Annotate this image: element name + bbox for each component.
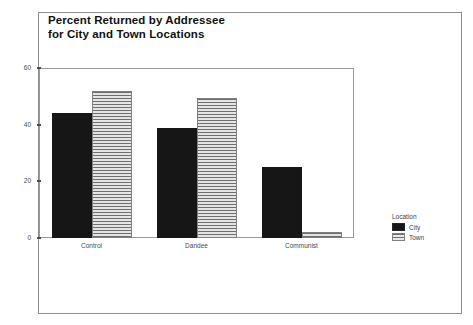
bar-city-communist — [262, 167, 302, 238]
y-axis-tick-label: 40 — [24, 121, 31, 128]
x-axis-tick-label: Control — [81, 242, 102, 249]
legend-label: City — [409, 224, 420, 231]
bar-town-control — [92, 91, 132, 238]
x-axis-tick-label: Communist — [285, 242, 318, 249]
chart-title-line-2: for City and Town Locations — [48, 28, 204, 40]
legend-label: Town — [409, 234, 424, 241]
legend-entries: CityTown — [392, 223, 452, 241]
legend-title: Location — [392, 213, 452, 220]
bar-town-dandee — [197, 98, 237, 238]
x-axis-tick-labels: ControlDandeeCommunist — [39, 242, 354, 256]
legend-swatch-city-icon — [392, 223, 405, 231]
y-axis-tick-label: 0 — [27, 234, 31, 241]
y-axis-tick-labels: 0204060 — [15, 68, 37, 238]
bar-town-communist — [302, 232, 342, 238]
bars-layer — [39, 68, 354, 238]
x-axis-tick-label: Dandee — [185, 242, 208, 249]
legend-swatch-town-icon — [392, 233, 405, 241]
chart-title-line-1: Percent Returned by Addressee — [48, 14, 225, 26]
legend-entry-city: City — [392, 223, 452, 231]
plot-area: 0204060 ControlDandeeCommunist — [39, 68, 354, 238]
bar-city-dandee — [157, 128, 197, 239]
legend-entry-town: Town — [392, 233, 452, 241]
legend: Location CityTown — [392, 213, 452, 243]
y-axis-tick-label: 20 — [24, 177, 31, 184]
y-axis-tick-label: 60 — [24, 64, 31, 71]
chart-title: Percent Returned by Addresseefor City an… — [48, 13, 348, 41]
bar-city-control — [52, 113, 92, 238]
